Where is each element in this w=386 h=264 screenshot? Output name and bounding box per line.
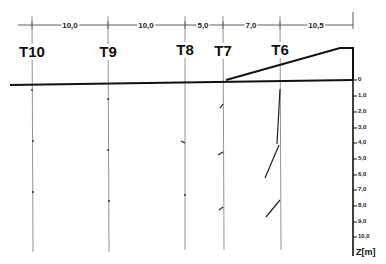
depth-tick-7: 7,0 xyxy=(358,186,366,193)
displacement-vectors xyxy=(181,89,280,217)
dimension-label-t10-t9: 10,0 xyxy=(61,21,79,30)
depth-axis-title: Z[m] xyxy=(356,247,376,257)
inclinometer-tubes xyxy=(32,16,281,252)
tube-label-t10: T10 xyxy=(19,44,45,60)
depth-tick-6: 6,0 xyxy=(358,171,366,178)
depth-tick-9: 9,0 xyxy=(358,218,366,225)
depth-tick-0: 0 xyxy=(358,76,361,83)
tube-label-t6: T6 xyxy=(271,42,289,58)
embankment-profile xyxy=(226,48,353,80)
inclinometer-diagram: 10,0 10,0 5,0 7,0 10,5 T10 T9 T8 T7 T6 0… xyxy=(0,0,386,264)
tube-label-t7: T7 xyxy=(214,43,232,59)
diagram-graphics xyxy=(0,0,386,264)
dimension-label-t6-crest: 10,5 xyxy=(307,21,325,30)
dimension-ticks xyxy=(32,12,353,29)
depth-tick-8: 8,0 xyxy=(358,202,366,209)
depth-tick-10: 10,0 xyxy=(358,233,370,240)
dimension-label-t7-t6: 7,0 xyxy=(244,21,257,30)
depth-tick-1: 1,0 xyxy=(358,92,366,99)
depth-tick-2: 2,0 xyxy=(358,108,366,115)
dimension-label-t9-t8: 10,0 xyxy=(137,21,155,30)
ground-surface-line xyxy=(10,80,353,85)
depth-tick-4: 4,0 xyxy=(358,139,366,146)
tube-label-t9: T9 xyxy=(99,44,117,60)
dimension-label-t8-t7: 5,0 xyxy=(196,21,209,30)
depth-tick-3: 3,0 xyxy=(358,124,366,131)
depth-tick-5: 5,0 xyxy=(358,155,366,162)
tube-label-t8: T8 xyxy=(176,42,194,58)
